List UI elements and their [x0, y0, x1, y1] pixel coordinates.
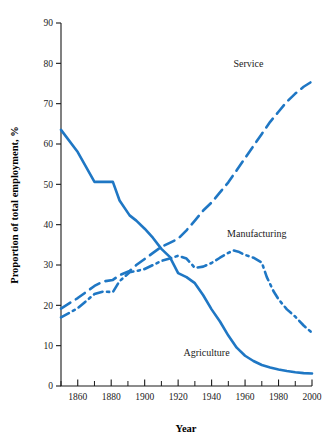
- y-tick-label: 40: [44, 220, 54, 230]
- y-tick-labels: 0102030405060708090: [44, 18, 54, 391]
- series-label-agriculture: Agriculture: [184, 347, 231, 358]
- y-tick-label: 20: [44, 301, 54, 311]
- y-tick-label: 30: [44, 260, 54, 270]
- y-tick-label: 10: [44, 341, 54, 351]
- x-tick-label: 1940: [202, 392, 221, 402]
- series-line-agriculture: [61, 130, 312, 374]
- employment-line-chart: 18601880190019201940196019802000 0102030…: [0, 0, 330, 441]
- series-label-service: Service: [233, 58, 264, 69]
- x-tick-label: 1900: [135, 392, 154, 402]
- x-tick-label: 1880: [102, 392, 121, 402]
- series-label-manufacturing: Manufacturing: [227, 228, 286, 239]
- y-tick-label: 80: [44, 59, 54, 69]
- x-tick-label: 1920: [169, 392, 188, 402]
- axes: [61, 23, 312, 386]
- y-tick-label: 70: [44, 99, 54, 109]
- y-tick-label: 90: [44, 18, 54, 28]
- axis-ticks: [56, 23, 312, 386]
- y-axis-title: Proportion of total employment, %: [9, 126, 20, 284]
- y-tick-label: 50: [44, 180, 54, 190]
- x-tick-label: 1960: [236, 392, 255, 402]
- x-tick-label: 1860: [68, 392, 87, 402]
- series-line-manufacturing: [61, 250, 312, 332]
- series-line-service: [61, 81, 312, 308]
- x-tick-label: 2000: [303, 392, 322, 402]
- series-annotations: AgricultureManufacturingService: [184, 58, 287, 357]
- x-tick-label: 1980: [269, 392, 288, 402]
- y-tick-label: 0: [48, 381, 53, 391]
- chart-figure: 18601880190019201940196019802000 0102030…: [0, 0, 330, 441]
- x-axis-title: Year: [176, 423, 197, 434]
- x-tick-labels: 18601880190019201940196019802000: [68, 392, 322, 402]
- y-tick-label: 60: [44, 139, 54, 149]
